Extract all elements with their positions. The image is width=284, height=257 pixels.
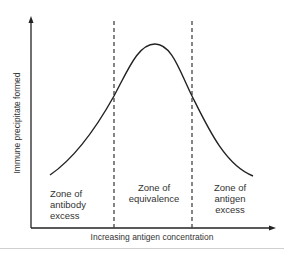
y-axis-arrow-icon [29, 16, 34, 23]
x-axis-arrow-icon [269, 226, 276, 231]
zone-equivalence-label: Zone of equivalence [122, 182, 186, 204]
zone-antibody-excess-label: Zone of antibody excess [50, 188, 94, 221]
precipitin-curve [50, 44, 253, 176]
x-axis-label: Increasing antigen concentration [91, 232, 214, 242]
precipitin-curve-diagram [0, 0, 284, 257]
bottom-divider [0, 248, 284, 249]
zone-antigen-excess-label: Zone of antigen excess [200, 182, 260, 215]
y-axis-label: Immune precipitate formed [12, 72, 22, 173]
